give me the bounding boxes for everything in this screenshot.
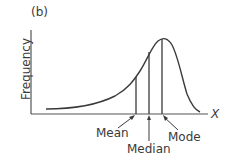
median-arrow <box>147 115 151 141</box>
distribution-curve <box>46 39 200 112</box>
x-axis-label: X <box>211 108 219 120</box>
mode-arrow <box>163 115 178 130</box>
median-label: Median <box>127 143 171 155</box>
skewed-distribution-figure: (b) Frequency X Mean Median Mode <box>0 0 233 161</box>
mean-label: Mean <box>96 127 129 139</box>
y-axis-label: Frequency <box>20 40 32 100</box>
panel-label: (b) <box>31 6 48 18</box>
mode-label: Mode <box>168 131 201 143</box>
